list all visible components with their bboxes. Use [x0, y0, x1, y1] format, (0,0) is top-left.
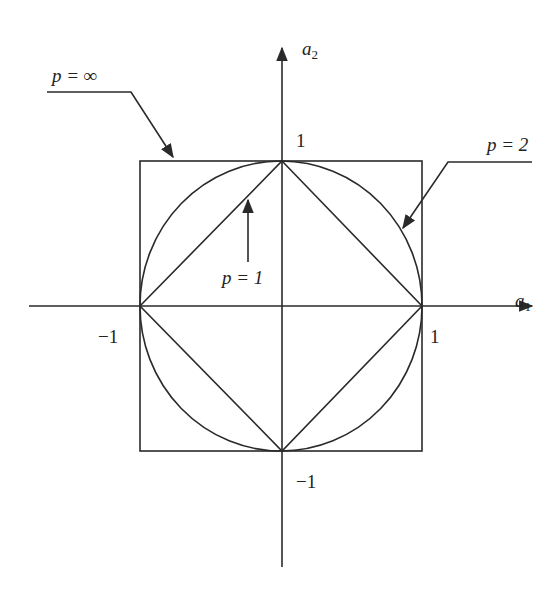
label-p-inf: p = ∞	[52, 66, 97, 85]
label-p-2: p = 2	[487, 135, 528, 154]
x-axis-label: a1	[515, 291, 531, 313]
label-p-1: p = 1	[222, 268, 263, 287]
y-tick-neg: −1	[296, 472, 316, 491]
leader-p-inf	[47, 92, 173, 157]
y-axis-label: a2	[302, 39, 318, 61]
diagram-graphics	[0, 0, 559, 594]
x-tick-pos: 1	[430, 327, 440, 346]
x-tick-neg: −1	[98, 327, 118, 346]
y-tick-pos: 1	[296, 131, 306, 150]
norm-unit-ball-diagram: a2 a1 1 −1 1 −1 p = ∞ p = 2 p = 1	[0, 0, 559, 594]
